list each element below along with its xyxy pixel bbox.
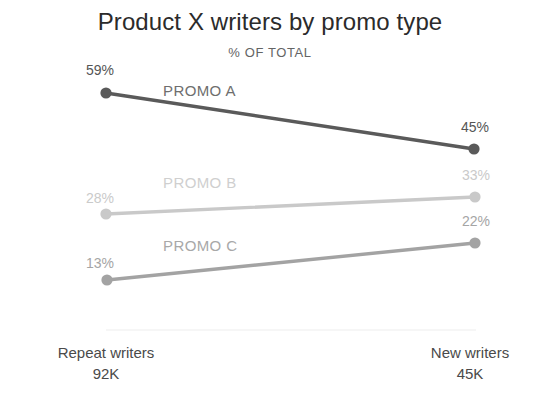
axis-label-left-name: Repeat writers	[18, 342, 194, 363]
axis-label-right: New writers 45K	[400, 342, 540, 384]
value-label-promo-c-right: 22%	[420, 213, 490, 229]
series-a-point-left[interactable]	[100, 87, 111, 98]
value-label-promo-c-left: 13%	[86, 255, 114, 271]
series-b-point-right[interactable]	[469, 191, 480, 202]
slope-chart: Product X writers by promo type % OF TOT…	[0, 0, 540, 407]
series-a-point-right[interactable]	[468, 143, 479, 154]
axis-label-left: Repeat writers 92K	[18, 342, 194, 384]
series-b-slope	[106, 197, 475, 214]
series-line-promo-c[interactable]	[101, 237, 480, 285]
series-b-point-left[interactable]	[100, 208, 111, 219]
series-c-point-left[interactable]	[101, 274, 112, 285]
axis-label-left-total: 92K	[18, 363, 194, 384]
series-label-promo-b: PROMO B	[163, 174, 237, 191]
series-label-promo-a: PROMO A	[163, 82, 236, 99]
value-label-promo-b-left: 28%	[86, 190, 114, 206]
series-label-promo-c: PROMO C	[163, 237, 237, 254]
axis-label-right-name: New writers	[400, 342, 540, 363]
value-label-promo-a-right: 45%	[419, 119, 489, 135]
series-c-point-right[interactable]	[469, 237, 480, 248]
value-label-promo-a-left: 59%	[86, 62, 114, 78]
axis-label-right-total: 45K	[400, 363, 540, 384]
value-label-promo-b-right: 33%	[420, 167, 490, 183]
